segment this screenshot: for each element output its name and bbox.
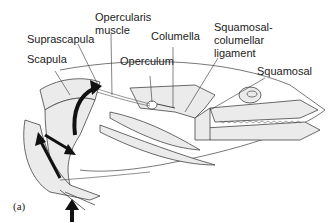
label-squamosal-columellar-3: ligament [214, 47, 256, 59]
hyoid [110, 112, 200, 150]
squamosal-ring [239, 87, 261, 103]
label-scapula: Scapula [27, 53, 67, 65]
upper-jaw [210, 100, 318, 122]
label-opercularis: Opercularis [95, 11, 151, 23]
lower-jaw [205, 122, 320, 140]
label-columella: Columella [151, 30, 200, 42]
label-squamosal-columellar-2: columellar [214, 34, 264, 46]
label-operculum: Operculum [120, 55, 174, 67]
diagram-canvas: Opercularis muscle Suprascapula Scapula … [0, 0, 334, 223]
label-squamosal: Squamosal [257, 65, 312, 77]
label-squamosal-columellar-1: Squamosal- [214, 21, 273, 33]
teeth [220, 121, 301, 123]
operculum [147, 101, 157, 109]
label-opercularis-muscle: muscle [95, 24, 130, 36]
label-suprascapula: Suprascapula [27, 33, 94, 45]
panel-label: (a) [13, 200, 25, 212]
